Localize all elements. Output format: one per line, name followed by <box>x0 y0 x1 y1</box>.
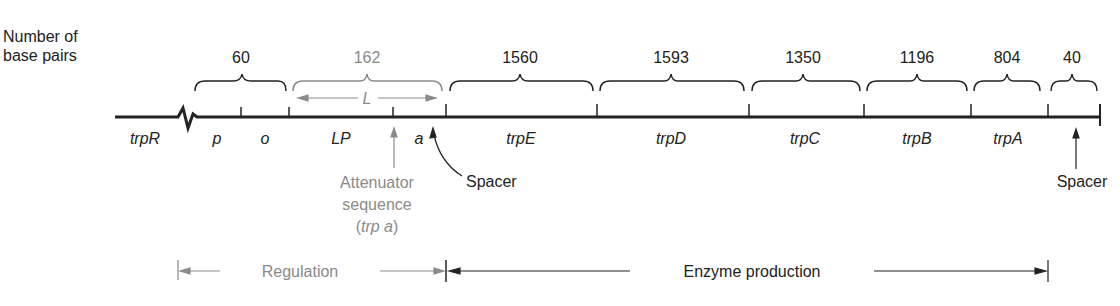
spacer-right-label: Spacer <box>1057 172 1108 191</box>
gene-trpE: trpE <box>506 129 535 148</box>
axis-label-line2: base pairs <box>3 46 78 65</box>
length-trpA: 804 <box>994 48 1021 67</box>
region-operator: o <box>261 129 270 148</box>
length-trpE: 1560 <box>502 48 538 67</box>
dna-baseline <box>115 108 1100 128</box>
length-leader: 162 <box>354 48 381 67</box>
region-attenuator: a <box>415 129 424 148</box>
spacer-left-arrow <box>430 128 462 176</box>
length-promoter-operator: 60 <box>232 48 250 67</box>
enzyme-production-label: Enzyme production <box>684 262 821 281</box>
attenuator-line1: Attenuator <box>340 172 414 194</box>
gene-trpR: trpR <box>130 129 160 148</box>
length-trpB: 1196 <box>900 48 934 67</box>
gene-trpB: trpB <box>902 129 931 148</box>
attenuator-line2: sequence <box>340 194 414 216</box>
operon-map-graphics <box>0 0 1120 306</box>
attenuator-arrow <box>391 128 397 168</box>
axis-label-line1: Number of <box>3 27 78 46</box>
length-spacer: 40 <box>1063 48 1081 67</box>
spacer-right-arrow <box>1073 129 1079 169</box>
gene-trpC: trpC <box>790 129 820 148</box>
braces <box>195 74 1097 91</box>
regulation-label: Regulation <box>262 262 339 281</box>
axis-label: Number of base pairs <box>3 27 78 65</box>
region-promoter: p <box>213 129 222 148</box>
gene-trpA: trpA <box>993 129 1022 148</box>
spacer-left-label: Spacer <box>466 172 517 191</box>
attenuator-line3: (trp a) <box>340 216 414 238</box>
gene-trpD: trpD <box>656 129 686 148</box>
attenuator-annotation: Attenuator sequence (trp a) <box>340 172 414 238</box>
region-leader-peptide: LP <box>331 129 351 148</box>
leader-label: L <box>360 89 375 108</box>
length-trpD: 1593 <box>653 48 689 67</box>
length-trpC: 1350 <box>785 48 821 67</box>
